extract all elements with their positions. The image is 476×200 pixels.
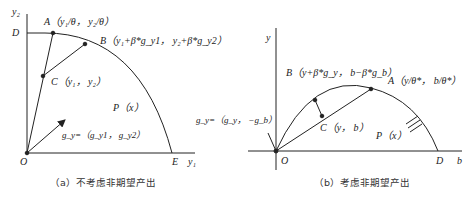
panel-a-label-B: B（y₁+β*g_y1， y₂+β*g_y2）	[100, 36, 227, 46]
panel-a-dot-A	[51, 31, 55, 35]
panel-b-y-axis-label: y	[266, 33, 270, 43]
panel-a-dot-B	[83, 42, 87, 46]
panel-b-region-label: P（x）	[376, 131, 407, 141]
panel-a-dot-O	[25, 151, 29, 155]
panel-b-line-B-C	[315, 100, 322, 116]
panel-a-line-O-A	[27, 33, 53, 153]
panel-b	[248, 28, 462, 170]
panel-a-label-O: O	[20, 157, 27, 167]
panel-a-caption: （a）不考虑非期望产出	[50, 178, 156, 188]
panel-b-caption: （b）考虑非期望产出	[314, 178, 410, 188]
panel-a-label-C: C（y₁， y₂）	[51, 77, 106, 87]
panel-b-label-A: A（y/θ*， b/θ*）	[388, 76, 461, 86]
panel-b-dot-O	[274, 149, 278, 153]
panel-b-frontier-curve	[276, 85, 438, 151]
panel-a-direction-vector-label: g_y=（g_y1， g_y2）	[62, 131, 145, 140]
diagram-canvas	[0, 0, 476, 200]
panel-a-y-axis-label: y₂	[12, 7, 20, 17]
panel-a-region-label: P（x）	[113, 103, 144, 113]
panel-b-direction-line	[268, 133, 276, 151]
panel-b-label-D: D	[436, 156, 443, 166]
panel-b-direction-vector-label: g_y=（g_y， −g_b）	[196, 116, 277, 125]
panel-a-x-axis-label: y₁	[188, 157, 196, 167]
panel-b-dot-A	[369, 87, 373, 91]
panel-b-dot-B	[313, 98, 317, 102]
panel-b-label-B: B（y+β*g_y， b−β*g_b）	[286, 68, 397, 78]
panel-b-label-O: O	[281, 156, 288, 166]
panel-a-label-A: A（y₁/θ， y₂/θ）	[44, 17, 114, 27]
panel-a-label-E: E	[172, 157, 178, 167]
panel-a-dot-C	[41, 74, 45, 78]
panel-b-label-C: C（y， b）	[320, 123, 369, 133]
panel-b-line-O-A	[276, 89, 371, 151]
panel-a-label-D: D	[12, 28, 19, 38]
panel-b-x-axis-label: b	[457, 156, 462, 166]
panel-b-dot-C	[320, 114, 324, 118]
